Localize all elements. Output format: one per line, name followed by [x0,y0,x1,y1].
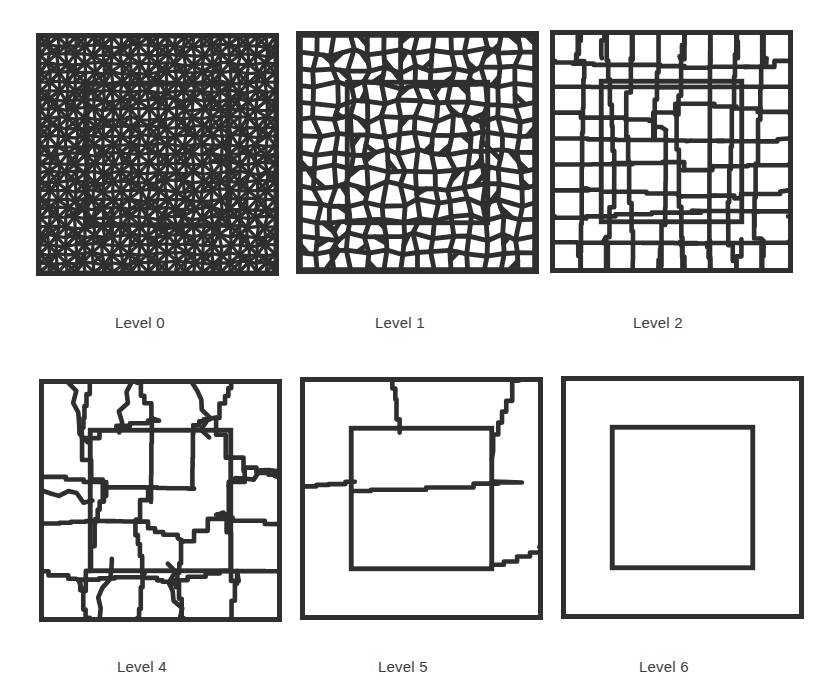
panel-grid: Level 0 Level 1 Level 2 [0,0,824,698]
mesh-edge [500,66,534,69]
mesh-edge [387,149,389,181]
mesh-edge [680,242,788,243]
mesh-edge [135,522,183,542]
mesh-edge [464,35,468,52]
mesh-edge [741,190,788,198]
panel-caption-level-5: Level 5 [378,659,428,674]
mesh-edge [82,438,106,501]
mesh-edge [300,250,466,255]
mesh-edge [350,87,354,135]
mesh-edge [329,198,534,206]
mesh-edge [69,201,76,207]
mesh-edge [313,104,321,156]
panel-caption-level-6: Level 6 [639,659,689,674]
mesh-edge [137,577,143,622]
subdomain-border [612,427,753,568]
panel-caption-level-4: Level 4 [117,659,167,674]
mesh-edge [659,245,661,271]
mesh-edge [692,211,759,212]
mesh-canvas-level-6 [561,376,804,619]
mesh-canvas-level-1 [296,31,539,274]
mesh-edge [137,383,153,421]
panel-caption-level-1: Level 1 [375,315,425,330]
mesh-edge [434,172,438,221]
subdomain-border [351,428,492,569]
mesh-edge [754,211,793,216]
mesh-edge [665,130,666,225]
mesh-edge [555,242,697,243]
mesh-edge [653,104,714,121]
mesh-edge [680,32,685,58]
mesh-edge [757,139,788,142]
mesh-edge [631,32,633,59]
mesh-edge [95,521,136,522]
mesh-edge [351,482,522,493]
domain-border-level-5 [302,379,540,617]
panel-caption-level-0: Level 0 [115,315,165,330]
mesh-edge [392,381,399,433]
mesh-edge [151,487,194,488]
mesh-edge [762,32,766,65]
mesh-edge [386,233,454,239]
mesh-edge [736,32,738,58]
mesh-edge [300,82,351,87]
mesh-edge [464,188,472,215]
mesh-edge [167,109,176,117]
mesh-edge [555,139,691,142]
mesh-edge [613,162,666,164]
subdomain-border [90,430,231,571]
domain-border-level-6 [563,378,801,616]
mesh-edge [492,547,543,569]
mesh-edge [714,105,761,110]
mesh-edge [414,132,420,218]
mesh-edge [192,425,193,488]
mesh-edge [606,238,607,271]
mesh-edge [300,100,367,106]
mesh-edge [43,571,79,581]
mesh-edge [467,253,535,256]
mesh-edge [581,80,584,273]
mesh-canvas-level-5 [300,377,543,620]
subdomain-border [601,81,742,222]
mesh-edge [448,155,456,217]
mesh-edge [300,136,321,137]
mesh-edge [43,491,93,503]
figure-root: Level 0 Level 1 Level 2 [0,0,824,698]
mesh-edge [578,245,581,271]
mesh-edge [498,52,535,53]
mesh-edge [368,132,414,137]
mesh-edge [681,67,749,68]
mesh-edge [762,241,763,271]
mesh-edge [304,482,355,487]
mesh-edge [215,383,231,418]
mesh-edge [300,203,329,207]
mesh-edge [413,219,420,270]
mesh-edge [467,254,468,270]
panel-caption-level-2: Level 2 [633,315,683,330]
mesh-edge [300,186,336,189]
mesh-edge [707,245,710,271]
mesh-edge [316,254,318,269]
mesh-edge [431,239,435,270]
mesh-edge [400,185,405,237]
mesh-edge [98,559,112,619]
mesh-canvas-level-4 [39,379,282,622]
mesh-edge [48,136,57,146]
mesh-edge [492,381,519,460]
mesh-edge [717,141,759,142]
mesh-edge [381,116,385,137]
mesh-edge [384,50,401,53]
mesh-edge [135,487,151,521]
mesh-edge [451,217,454,237]
mesh-edge [95,487,107,523]
mesh-canvas-level-0 [36,33,279,276]
mesh-edge [555,113,653,121]
mesh-canvas-level-2 [550,30,793,273]
mesh-edge [754,35,762,227]
